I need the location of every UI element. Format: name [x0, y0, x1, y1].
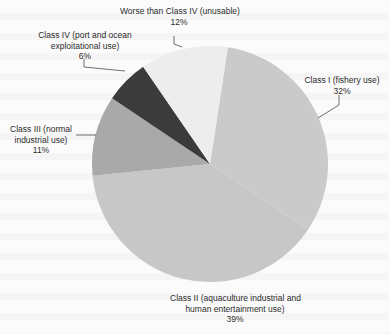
label-text: Class II (aquaculture industrial and [170, 293, 300, 304]
label-text-2: human entertainment use) [170, 304, 300, 315]
label-text-2: exploitational use) [38, 41, 132, 52]
label-text: Worse than Class IV (unusable) [120, 6, 238, 17]
label-text: Class I (fishery use) [300, 75, 384, 86]
label-text: Class III (normal [8, 124, 74, 135]
label-percent: 6% [38, 51, 132, 62]
label-class-iv: Class IV (port and ocean exploitational … [38, 30, 132, 62]
label-percent: 39% [170, 314, 300, 325]
label-class-iii: Class III (normal industrial use) 11% [8, 124, 74, 156]
label-class-i: Class I (fishery use) 32% [300, 75, 384, 96]
label-percent: 12% [120, 17, 238, 28]
label-percent: 32% [300, 86, 384, 97]
leader-line-class1 [318, 95, 339, 118]
pie-slices [92, 46, 328, 282]
label-text-2: industrial use) [8, 135, 74, 146]
label-text: Class IV (port and ocean [38, 30, 132, 41]
label-class-ii: Class II (aquaculture industrial and hum… [170, 293, 300, 325]
leader-line-worse [174, 36, 182, 47]
label-worse-than-class-iv: Worse than Class IV (unusable) 12% [120, 6, 238, 27]
label-percent: 11% [8, 145, 74, 156]
